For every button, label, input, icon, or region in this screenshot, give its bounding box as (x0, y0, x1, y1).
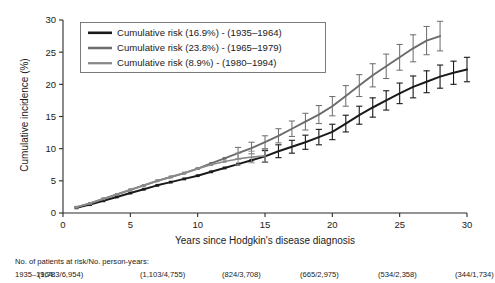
risk-row-cell: (824/3,708) (222, 270, 261, 279)
x-tick-label: 0 (60, 219, 65, 230)
x-tick-label: 25 (394, 219, 405, 230)
risk-row-cell: (1,103/4,755) (140, 270, 186, 279)
x-tick-label: 15 (260, 219, 271, 230)
risk-row-cell: (344/1,734) (455, 270, 494, 279)
figure-container: 051015202530 051015202530 Cumulative inc… (0, 0, 495, 283)
risk-row-cell: (534/2,358) (378, 270, 417, 279)
legend-label-3: Cumulative risk (8.9%) - (1980–1994) (117, 57, 276, 68)
y-tick-label: 25 (45, 47, 56, 58)
legend-label-1: Cumulative risk (16.9%) - (1935–1964) (117, 27, 282, 38)
x-tick-label: 10 (192, 219, 203, 230)
y-tick-label: 10 (45, 143, 56, 154)
risk-table-header: No. of patients at risk/No. person-years… (15, 257, 149, 266)
x-tick-label: 30 (462, 219, 473, 230)
legend-items: Cumulative risk (16.9%) - (1935–1964)Cum… (88, 27, 282, 68)
legend-label-2: Cumulative risk (23.8%) - (1965–1979) (117, 42, 282, 53)
x-tick-label: 5 (128, 219, 133, 230)
risk-row-cell: (1,783/6,954) (38, 270, 84, 279)
y-tick-label: 5 (51, 175, 56, 186)
y-tick-label: 30 (45, 14, 56, 25)
x-axis-title: Years since Hodgkin's disease diagnosis (175, 235, 355, 246)
y-tick-label: 20 (45, 79, 56, 90)
y-tick-label: 15 (45, 111, 56, 122)
y-tick-label: 0 (51, 207, 56, 218)
chart-legend: Cumulative risk (16.9%) - (1935–1964)Cum… (81, 23, 326, 73)
cumulative-incidence-chart: 051015202530 051015202530 Cumulative inc… (0, 0, 495, 283)
risk-row-cell: (665/2,975) (300, 270, 339, 279)
x-tick-label: 20 (327, 219, 338, 230)
y-axis-title: Cumulative incidence (%) (19, 58, 30, 171)
